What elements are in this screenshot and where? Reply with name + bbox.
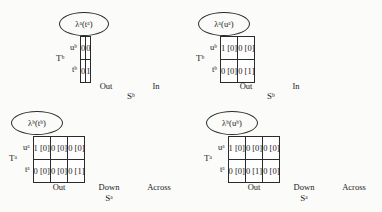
table-cell: 1 [0] [33, 137, 50, 160]
col-header: Out [34, 182, 84, 192]
table-row: 0 0 [80, 37, 91, 60]
table-cell: 0 [0] [33, 160, 50, 183]
col-header: Out [229, 182, 279, 192]
table-row: 0 [0] 0 [1] [220, 60, 255, 83]
col-header: In [131, 81, 181, 91]
axis-label-lambda-b-ub: Sᵃ [229, 193, 379, 203]
figure-root: λᵃ(tᵃ) Tᵇ uᵇ tᵇ 0 0 0 1 [0, 0, 382, 212]
table-cell: 1 [0] [220, 37, 237, 60]
col-header: Out [81, 81, 131, 91]
col-headers-lambda-b-ub: Out Down Across [229, 182, 379, 192]
payoff-table-lambda-b-ub: 1 [0] 0 [0] 0 [0] 0 [0] 0 [1] 0 [0] [228, 136, 281, 183]
col-header: Out [221, 81, 271, 91]
col-header: Across [134, 182, 184, 192]
col-headers-lambda-b-tb: Out Down Across [34, 182, 184, 192]
table-cell: 0 [0] [50, 137, 67, 160]
row-label-list: uᵃ tᵃ [23, 136, 30, 180]
matrix-wrap-lambda-a-ua: Tᵇ uᵇ tᵇ 1 [0] 0 [0] 0 [0] 0 [1] [196, 36, 255, 83]
table-cell: 0 [0] [263, 160, 280, 183]
ellipse-label-lambda-b-ub: λᵇ(uᵇ) [206, 111, 258, 135]
table-row: 1 [0] 0 [0] [220, 37, 255, 60]
table-cell: 0 [1] [245, 160, 262, 183]
col-header: In [271, 81, 321, 91]
table-cell: 1 [86, 60, 91, 83]
col-header: Down [279, 182, 329, 192]
table-cell: 0 [0] [238, 37, 255, 60]
row-label-col: Tᵃ uᵃ tᵃ [204, 136, 228, 180]
payoff-table-lambda-a-ua: 1 [0] 0 [0] 0 [0] 0 [1] [220, 36, 256, 83]
ellipse-label-text: λᵃ(uᵃ) [214, 20, 233, 29]
table-cell: 0 [0] [220, 60, 237, 83]
table-row: 0 [0] 0 [1] 0 [0] [228, 160, 280, 183]
ellipse-label-lambda-a-ta: λᵃ(tᵃ) [59, 12, 109, 36]
row-label: uᵃ [23, 136, 30, 158]
table-cell: 0 [0] [68, 137, 85, 160]
row-label-col: Tᵇ uᵇ tᵇ [196, 36, 220, 80]
matrix-wrap-lambda-b-ub: Tᵃ uᵃ tᵃ 1 [0] 0 [0] 0 [0] 0 [0] 0 [1] [204, 136, 280, 183]
axis-label-lambda-a-ta: Sᵇ [81, 91, 181, 101]
row-label: uᵃ [218, 136, 225, 158]
matrix-wrap-lambda-b-tb: Tᵃ uᵃ tᵃ 1 [0] 0 [0] 0 [0] 0 [0] 0 [0] [9, 136, 85, 183]
table-cell: 1 [0] [228, 137, 245, 160]
row-label: tᵇ [210, 58, 217, 80]
row-label: tᵃ [23, 158, 30, 180]
col-headers-lambda-a-ua: Out In [221, 81, 321, 91]
row-group-label: Tᵃ [9, 153, 17, 163]
ellipse-label-lambda-a-ua: λᵃ(uᵃ) [198, 12, 250, 36]
table-cell: 0 [86, 37, 91, 60]
table-row: 1 [0] 0 [0] 0 [0] [33, 137, 85, 160]
row-label: tᵇ [70, 58, 77, 80]
ellipse-label-text: λᵃ(tᵃ) [75, 20, 92, 29]
matrix-wrap-lambda-a-ta: Tᵇ uᵇ tᵇ 0 0 0 1 [56, 36, 91, 83]
row-group-label: Tᵇ [56, 53, 64, 63]
table-cell: 0 [0] [50, 160, 67, 183]
row-label-col: Tᵇ uᵇ tᵇ [56, 36, 80, 80]
ellipse-label-text: λᵇ(tᵇ) [28, 119, 46, 128]
table-row: 1 [0] 0 [0] 0 [0] [228, 137, 280, 160]
col-header: Down [84, 182, 134, 192]
table-row: 0 1 [80, 60, 91, 83]
payoff-table-lambda-a-ta: 0 0 0 1 [80, 36, 92, 83]
row-group-label: Tᵃ [204, 153, 212, 163]
table-cell: 0 [1] [238, 60, 255, 83]
row-group-label: Tᵇ [196, 53, 204, 63]
col-header: Across [329, 182, 379, 192]
ellipse-label-text: λᵇ(uᵇ) [222, 119, 242, 128]
col-headers-lambda-a-ta: Out In [81, 81, 181, 91]
row-label: tᵃ [218, 158, 225, 180]
row-label-col: Tᵃ uᵃ tᵃ [9, 136, 33, 180]
row-label-list: uᵇ tᵇ [210, 36, 217, 80]
table-cell: 0 [0] [228, 160, 245, 183]
table-cell: 0 [0] [245, 137, 262, 160]
payoff-table-lambda-b-tb: 1 [0] 0 [0] 0 [0] 0 [0] 0 [0] 0 [1] [33, 136, 86, 183]
axis-label-lambda-b-tb: Sᵃ [34, 193, 184, 203]
row-label: uᵇ [70, 36, 77, 58]
row-label-list: uᵃ tᵃ [218, 136, 225, 180]
table-row: 0 [0] 0 [0] 0 [1] [33, 160, 85, 183]
axis-label-lambda-a-ua: Sᵇ [221, 91, 321, 101]
table-cell: 0 [1] [68, 160, 85, 183]
table-cell: 0 [0] [263, 137, 280, 160]
row-label: uᵇ [210, 36, 217, 58]
row-label-list: uᵇ tᵇ [70, 36, 77, 80]
ellipse-label-lambda-b-tb: λᵇ(tᵇ) [11, 111, 63, 135]
